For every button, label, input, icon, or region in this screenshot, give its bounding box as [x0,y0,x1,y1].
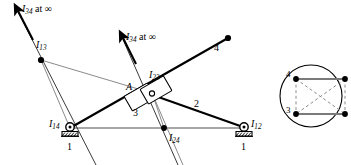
kennedy-label-4: 4 [286,70,291,79]
label-link-3: 3 [133,108,138,118]
label-i12: I12 [251,119,262,131]
pivot-center-i14 [69,126,72,129]
label-i14: I14 [49,119,60,131]
label-point-a: A [126,82,132,92]
kennedy-vertex-4 [293,76,299,82]
label-i13: I13 [36,40,47,52]
label-link-4: 4 [214,43,219,53]
label-i24: I24 [169,133,180,145]
kennedy-vertex-1 [342,76,348,82]
node-i24 [161,125,167,131]
label-i34-top-left: I34 at ∞ [22,4,52,16]
slider-pin-i23 [149,91,154,96]
label-ground-right-1: 1 [241,142,246,152]
node-link4-tip [225,35,231,41]
kennedy-label-3: 3 [286,106,291,115]
link-3-bar [70,38,228,128]
label-ground-left-1: 1 [67,142,72,152]
construction-i13-i14 [41,60,70,128]
label-i34-middle: I34 at ∞ [126,32,156,44]
kennedy-vertex-3 [293,111,299,117]
label-i23: I23 [149,70,160,82]
node-i13 [38,57,44,63]
pivot-center-i12 [243,126,246,129]
kinematics-figure: I34 at ∞ I34 at ∞ I13 I23 I14 I12 I24 A … [0,0,351,165]
label-link-2: 2 [194,99,199,109]
kennedy-vertex-2 [342,111,348,117]
